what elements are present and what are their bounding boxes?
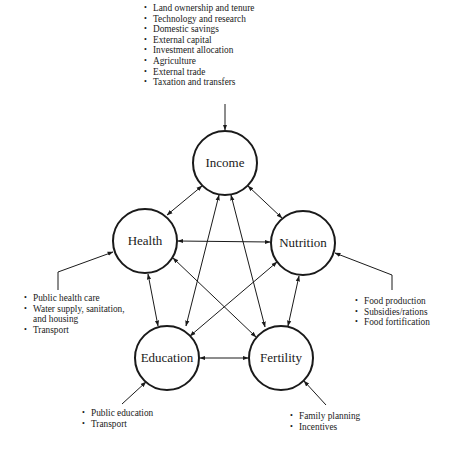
edge-nutrition-fertility [288,276,299,326]
edge-income-health [167,186,202,215]
list-item: Agriculture [144,56,254,67]
list-item: Transport [24,325,125,336]
edge-income-education [186,195,219,326]
list-item: Food production [355,296,430,307]
list-item-continuation: and housing [24,314,125,325]
nutrition-inputs-list: Food production Subsidies/rations Food f… [355,296,430,328]
list-item: Family planning [290,411,360,422]
node-education: Education [135,326,199,390]
edge-health-education [148,274,158,326]
list-item: Investment allocation [144,45,254,56]
income-inputs-list: Land ownership and tenure Technology and… [144,3,254,88]
input-arrow-fertility [304,381,326,405]
node-health: Health [113,209,177,273]
node-label: Fertility [260,350,302,365]
node-nutrition: Nutrition [271,211,335,275]
list-item: External trade [144,67,254,78]
edge-income-nutrition [248,186,282,218]
list-item: Food fortification [355,317,430,328]
node-label: Health [128,233,163,248]
edge-health-fertility [173,258,256,337]
input-arrow-nutrition [335,253,392,290]
list-item: Public health care [24,293,125,304]
education-inputs-list: Public education Transport [82,408,153,429]
node-label: Nutrition [279,235,327,250]
list-item: Technology and research [144,14,254,25]
input-arrow-health [58,252,113,290]
list-item: External capital [144,35,254,46]
list-item: Transport [82,419,153,430]
list-item: Taxation and transfers [144,77,254,88]
node-label: Income [206,155,245,170]
edge-health-nutrition [178,241,270,242]
list-item: Domestic savings [144,24,254,35]
edge-income-fertility [231,195,265,327]
health-inputs-list: Public health care Water supply, sanitat… [24,293,125,335]
list-item: Water supply, sanitation, [24,304,125,315]
input-arrow-education [122,382,146,404]
list-item: Incentives [290,422,360,433]
list-item: Land ownership and tenure [144,3,254,14]
list-item: Public education [82,408,153,419]
node-fertility: Fertility [249,326,313,390]
fertility-inputs-list: Family planning Incentives [290,411,360,432]
node-income: Income [193,131,257,195]
node-label: Education [141,350,194,365]
list-item: Subsidies/rations [355,307,430,318]
